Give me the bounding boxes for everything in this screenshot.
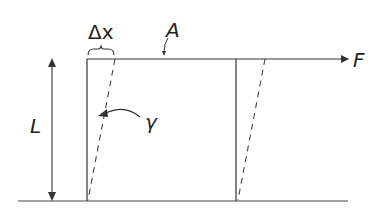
force-label: F <box>353 50 365 70</box>
area-label: A <box>166 20 180 40</box>
delta-x-brace <box>88 45 114 55</box>
diagram-canvas <box>0 0 385 210</box>
gamma-pointer-head <box>98 109 108 117</box>
shear-diagram: Δx A F L γ <box>0 0 385 210</box>
area-pointer-head <box>162 51 166 56</box>
length-label: L <box>30 116 41 136</box>
deformed-left-edge-dashed <box>88 59 115 200</box>
delta-x-label: Δx <box>88 22 114 42</box>
shear-angle-label: γ <box>145 112 157 132</box>
gamma-pointer <box>106 109 140 117</box>
length-arrow-bottom-head <box>48 192 56 201</box>
deformed-right-edge-dashed <box>238 59 265 200</box>
length-arrow-top-head <box>48 58 56 67</box>
